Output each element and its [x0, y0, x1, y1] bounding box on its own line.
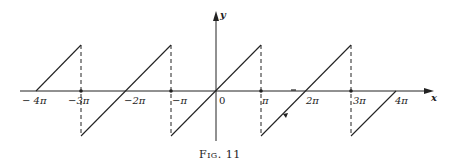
- tick-label-pi: π: [262, 95, 269, 106]
- y-axis-arrow-icon: [213, 11, 219, 21]
- tick-label-neg3pi: −3π: [68, 95, 89, 106]
- y-axis-label: y: [220, 9, 226, 20]
- origin-label: 0: [219, 95, 225, 106]
- tick-label-2pi: 2π: [306, 95, 319, 106]
- figure-caption: Fig. 11: [199, 148, 241, 161]
- tick-label-negpi: −π: [172, 95, 187, 106]
- sawtooth-plot: [0, 0, 452, 167]
- tick-label-3pi: 3π: [353, 95, 366, 106]
- tick-label-4pi: 4π: [395, 95, 408, 106]
- tick-label-neg4pi: − 4π: [22, 95, 47, 106]
- x-axis-label: x: [431, 92, 437, 103]
- tick-label-neg2pi: −2π: [124, 95, 145, 106]
